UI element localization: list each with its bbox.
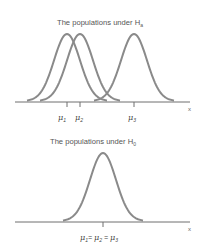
bottom-x-label: x [188,226,191,232]
top-panel: The populations under Ha x μ1 μ2 μ3 [15,18,191,123]
bottom-panel: The populations under H0 x μ1= μ2 = μ3 [15,137,191,243]
bottom-title: The populations under H0 [50,137,136,147]
top-title: The populations under Ha [57,18,143,28]
mu3-label: μ3 [128,113,136,123]
equal-means-label: μ1= μ2 = μ3 [80,233,118,243]
mu2-label: μ2 [75,113,83,123]
top-x-label: x [188,106,191,112]
anova-populations-diagram: The populations under Ha x μ1 μ2 μ3 The … [0,0,201,247]
mu1-label: μ1 [58,113,66,123]
common-population-curve [63,153,143,220]
